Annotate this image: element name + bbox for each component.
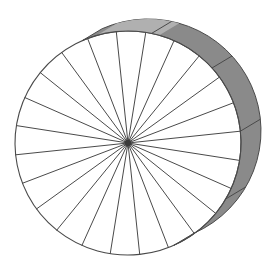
hub-group [125,140,131,146]
wheel-figure: Spoked wheel in oblique perspective [0,0,276,267]
wheel-drawing [0,0,276,267]
figure-background [0,0,276,267]
hub [125,140,131,146]
